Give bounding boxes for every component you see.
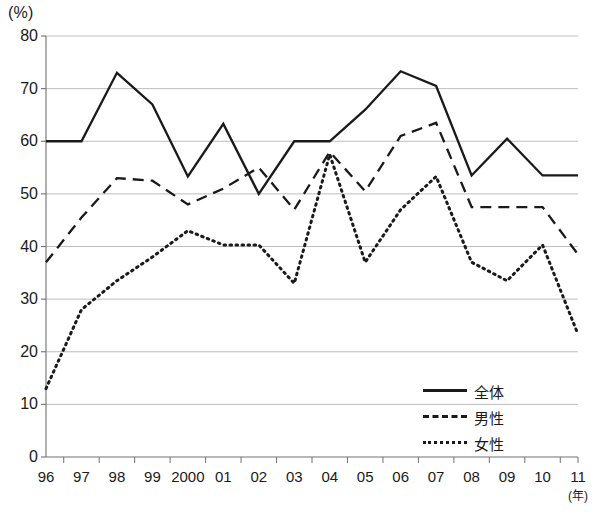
y-axis-tick-label: 60 (4, 132, 38, 150)
x-axis-tick-label: 11 (570, 468, 586, 485)
x-axis-tick-label: 96 (38, 468, 55, 485)
x-axis-tick-label: 06 (392, 468, 409, 485)
y-axis-tick-label: 70 (4, 80, 38, 98)
legend-item-dotted: 女性 (423, 430, 504, 456)
x-axis-tick-label: 97 (73, 468, 90, 485)
x-axis-tick-label: 98 (109, 468, 126, 485)
x-axis-tick-label: 10 (534, 468, 551, 485)
legend-label: 男性 (474, 407, 504, 428)
y-axis-tick-label: 40 (4, 238, 38, 256)
legend-label: 女性 (474, 433, 504, 454)
series-line-dotted (46, 154, 578, 388)
x-axis-tick-label: 2000 (171, 468, 204, 485)
x-axis-tick-label: 03 (286, 468, 303, 485)
series-line-solid (46, 71, 578, 194)
legend-label: 全体 (474, 381, 504, 402)
x-axis-tick-label: 04 (321, 468, 338, 485)
x-axis-tick-label: 02 (250, 468, 267, 485)
x-axis-tick-label: 07 (428, 468, 445, 485)
x-axis-tick-label: 08 (463, 468, 480, 485)
y-axis-tick-label: 0 (4, 448, 38, 466)
chart-canvas (0, 0, 598, 521)
x-axis-tick-label: 05 (357, 468, 374, 485)
chart-legend: 全体男性女性 (423, 378, 504, 456)
y-axis-tick-label: 50 (4, 185, 38, 203)
y-axis-tick-label: 30 (4, 290, 38, 308)
x-axis-tick-label: 01 (215, 468, 232, 485)
x-axis-unit-label: (年) (568, 486, 588, 503)
y-axis-tick-label: 80 (4, 27, 38, 45)
y-axis-tick-label: 10 (4, 395, 38, 413)
y-axis-tick-label: 20 (4, 343, 38, 361)
legend-item-solid: 全体 (423, 378, 504, 404)
x-axis-tick-label: 99 (144, 468, 161, 485)
line-chart: (%) 80706050403020100 969798992000010203… (0, 0, 598, 521)
x-axis-tick-label: 09 (499, 468, 516, 485)
legend-item-dashed: 男性 (423, 404, 504, 430)
series-line-dashed (46, 123, 578, 262)
